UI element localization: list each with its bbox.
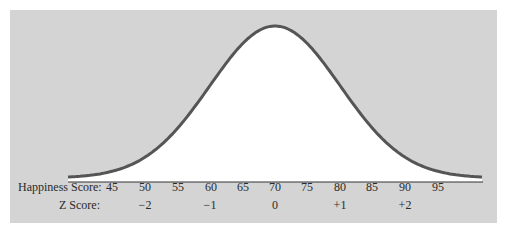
z-score-row-title: Z Score: [18,198,100,212]
score-tick-75: 75 [301,180,313,194]
score-tick-60: 60 [205,180,217,194]
score-tick-80: 80 [334,180,346,194]
z-tick-plus-2: +2 [399,198,412,212]
score-tick-65: 65 [237,180,249,194]
z-tick-plus-1: +1 [334,198,347,212]
curve-area [68,26,482,182]
z-tick-minus-1: −1 [204,198,217,212]
score-tick-85: 85 [366,180,378,194]
score-tick-55: 55 [172,180,184,194]
score-tick-50: 50 [139,180,151,194]
score-tick-70: 70 [269,180,281,194]
score-tick-45: 45 [106,180,118,194]
z-tick-minus-2: −2 [139,198,152,212]
score-tick-90: 90 [399,180,411,194]
score-tick-95: 95 [432,180,444,194]
happiness-score-row-title: Happiness Score: [18,180,100,194]
z-tick-0: 0 [272,198,278,212]
